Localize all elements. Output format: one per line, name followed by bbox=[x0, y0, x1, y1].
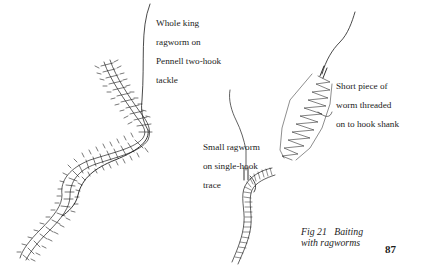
label-short-piece-worm: Short piece of worm threaded on to hook … bbox=[336, 72, 399, 139]
caption-line: Fig 21 Baiting bbox=[301, 226, 363, 237]
label-line: Small ragworm bbox=[203, 143, 260, 153]
whole-king-ragworm-drawing bbox=[17, 4, 152, 261]
page-number: 87 bbox=[385, 243, 396, 255]
book-page: Whole king ragworm on Pennell two-hook t… bbox=[0, 0, 424, 269]
label-line: ragworm on bbox=[156, 38, 221, 48]
label-line: trace bbox=[203, 181, 260, 191]
label-line: Short piece of bbox=[336, 82, 399, 92]
label-line: tackle bbox=[156, 76, 221, 86]
label-line: Whole king bbox=[156, 19, 221, 29]
figure-caption: Fig 21 Baiting with ragworms bbox=[301, 226, 363, 248]
label-line: Pennell two-hook bbox=[156, 57, 221, 67]
label-whole-king-ragworm: Whole king ragworm on Pennell two-hook t… bbox=[156, 9, 221, 95]
label-line: on to hook shank bbox=[336, 120, 399, 130]
caption-line: with ragworms bbox=[301, 237, 363, 248]
label-small-ragworm: Small ragworm on single-hook trace bbox=[203, 133, 260, 200]
label-line: worm threaded bbox=[336, 101, 399, 111]
label-line: on single-hook bbox=[203, 162, 260, 172]
